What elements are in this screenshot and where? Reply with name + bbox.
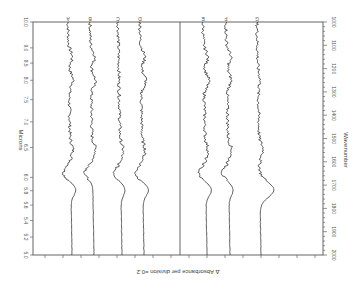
wavenumber-tick-label: 1000 [331, 16, 337, 27]
micron-tick-label: 8.5 [23, 60, 29, 67]
wavenumber-tick-label: 1300 [331, 86, 337, 97]
spectrum-trace-e [198, 22, 212, 255]
wavenumber-tick-label: 2000 [331, 249, 337, 260]
wavenumber-tick-label: 1700 [331, 180, 337, 191]
wavenumber-tick-label: 1200 [331, 63, 337, 74]
series-label: E [201, 16, 205, 22]
micron-tick-label: 5.6 [23, 202, 29, 209]
spectrum-trace-g [256, 22, 274, 255]
spectrum-trace-c [113, 22, 125, 255]
plot-frame [33, 22, 323, 255]
micron-tick-label: 10.0 [23, 17, 29, 27]
micron-tick-label: 5.2 [23, 234, 29, 241]
series-label: F [224, 16, 227, 22]
series-label: D [138, 16, 142, 22]
spectrum-trace-d [135, 22, 149, 255]
micron-tick-label: 6.0 [23, 174, 29, 181]
spectrum-trace-b [84, 22, 97, 255]
wavenumber-axis-label: Wavenumber [343, 132, 349, 167]
wavenumber-tick-label: 1500 [331, 133, 337, 144]
spectra-traces [62, 22, 274, 255]
wavenumber-tick-label: 1600 [331, 156, 337, 167]
micron-tick-label: 8.0 [23, 77, 29, 84]
micron-tick-label: 5.8 [23, 187, 29, 194]
wavenumber-tick-label: 1100 [331, 40, 337, 51]
series-label: A [66, 16, 70, 22]
micron-tick-label: 9.0 [23, 44, 29, 51]
series-label: B [88, 16, 92, 22]
wavenumber-tick-label: 1800 [331, 203, 337, 214]
absorbance-axis-label: Δ Absorbance per division =0.2 [136, 269, 220, 275]
wavenumber-axis: 2000190018001700160015001400130012001100… [323, 16, 337, 260]
micron-tick-label: 7.0 [23, 118, 29, 125]
spectrum-trace-f [221, 22, 233, 255]
wavenumber-tick-label: 1900 [331, 226, 337, 237]
series-label: G [255, 16, 259, 22]
ir-spectra-chart: 5.05.25.45.65.86.06.57.07.58.08.59.010.0… [0, 0, 355, 281]
microns-axis-label: Microns [18, 129, 24, 150]
series-labels: ABCDEFG [66, 16, 259, 22]
wavenumber-tick-label: 1400 [331, 110, 337, 121]
spectrum-trace-a [62, 22, 75, 255]
micron-tick-label: 5.4 [23, 217, 29, 224]
micron-tick-label: 7.5 [23, 96, 29, 103]
micron-tick-label: 5.0 [23, 252, 29, 259]
series-label: C [116, 16, 120, 22]
